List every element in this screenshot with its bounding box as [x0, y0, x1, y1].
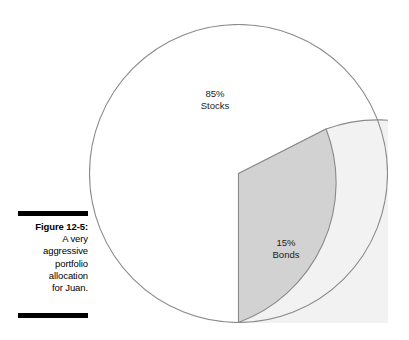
caption-rule-top [18, 211, 88, 216]
pie-chart-svg [89, 24, 388, 323]
caption-line-3: portfolio [0, 258, 88, 270]
caption-rule-bottom [18, 313, 88, 318]
caption-line-4: allocation [0, 270, 88, 282]
caption-line-1: A very [0, 233, 88, 245]
pie-label-stocks: 85% Stocks [155, 88, 275, 111]
pie-chart [89, 24, 388, 323]
figure-number-label: Figure 12-5: [0, 221, 88, 233]
figure-caption-block: Figure 12-5: A very aggressive portfolio… [0, 205, 96, 325]
pie-label-stocks-name: Stocks [155, 100, 275, 112]
caption-line-2: aggressive [0, 245, 88, 257]
pie-label-bonds-name: Bonds [226, 249, 346, 261]
figure-page: Figure 12-5: A very aggressive portfolio… [0, 0, 409, 340]
figure-caption-text: Figure 12-5: A very aggressive portfolio… [0, 221, 88, 294]
caption-line-5: for Juan. [0, 282, 88, 294]
pie-label-stocks-percent: 85% [155, 88, 275, 100]
pie-label-bonds: 15% Bonds [226, 237, 346, 260]
pie-label-bonds-percent: 15% [226, 237, 346, 249]
